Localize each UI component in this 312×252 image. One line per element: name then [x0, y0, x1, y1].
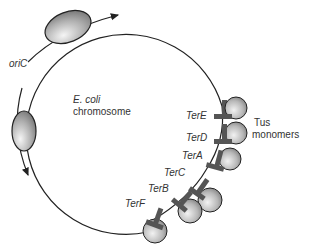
ter-site-tere-block: [214, 114, 232, 119]
ter-label-terf: TerF: [125, 198, 145, 209]
ter-label-terc: TerC: [164, 167, 185, 178]
chromosome-label: chromosome: [73, 106, 131, 117]
tus-label: Tus: [254, 117, 270, 128]
ter-label-terb: TerB: [148, 183, 169, 194]
replisome-top: [40, 4, 96, 50]
tus-monomers-label: monomers: [252, 129, 299, 140]
ter-label-terd: TerD: [186, 132, 207, 143]
oric-label: oriC: [9, 58, 27, 69]
chromosome-species-label: E. coli: [73, 94, 100, 105]
ter-label-tere: TerE: [186, 110, 207, 121]
ter-label-tera: TerA: [182, 150, 203, 161]
replisome-left: [12, 111, 36, 151]
